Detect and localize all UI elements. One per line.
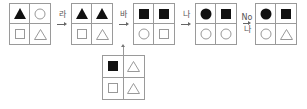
square-filled-icon (281, 9, 291, 19)
cell (103, 56, 124, 78)
circle-outline-icon (138, 28, 150, 40)
arrow-label-1: 라 (56, 10, 68, 19)
triangle-outline-icon (127, 83, 140, 94)
cell (154, 4, 174, 24)
triangle-filled-icon (14, 8, 26, 19)
cell (124, 56, 145, 78)
arrow-right-icon (57, 24, 65, 25)
square-outline-icon (159, 29, 169, 39)
cell (10, 4, 30, 24)
circle-outline-icon (220, 28, 232, 40)
cell (134, 24, 154, 44)
triangle-filled-icon (76, 8, 88, 19)
cell (72, 4, 92, 24)
cell (30, 24, 50, 44)
cell (92, 4, 112, 24)
cell (276, 4, 296, 24)
arrow-right-icon (243, 23, 249, 24)
cell (103, 78, 124, 100)
cell (196, 4, 216, 24)
circle-filled-icon (260, 8, 272, 20)
arrow-label-2: 바 (117, 10, 129, 19)
cell (30, 4, 50, 24)
cell (216, 24, 236, 44)
grid-2 (71, 3, 113, 45)
grid-6 (102, 55, 145, 100)
grid-3 (133, 3, 175, 45)
square-filled-icon (139, 9, 149, 19)
grid-1 (9, 3, 51, 45)
arrow-label-4: No (240, 13, 254, 22)
grid-4 (195, 3, 237, 45)
grid-5 (255, 3, 297, 45)
cell (92, 24, 112, 44)
cell (124, 78, 145, 100)
cell (256, 4, 276, 24)
triangle-outline-icon (280, 29, 293, 40)
square-filled-icon (108, 61, 118, 71)
cell (154, 24, 174, 44)
triangle-outline-icon (34, 29, 47, 40)
arrow-label-4b: 나 (241, 25, 253, 34)
circle-outline-icon (260, 28, 272, 40)
arrow-right-icon (181, 24, 189, 25)
connector-line (123, 47, 124, 55)
circle-filled-icon (200, 8, 212, 20)
square-outline-icon (77, 29, 87, 39)
cell (256, 24, 276, 44)
arrow-right-icon (119, 24, 127, 25)
square-filled-icon (221, 9, 231, 19)
circle-outline-icon (34, 8, 46, 20)
square-outline-icon (108, 83, 118, 93)
triangle-outline-icon (96, 29, 109, 40)
cell (216, 4, 236, 24)
arrow-label-3: 나 (180, 10, 192, 19)
cell (10, 24, 30, 44)
cell (134, 4, 154, 24)
cell (196, 24, 216, 44)
cell (276, 24, 296, 44)
square-outline-icon (15, 29, 25, 39)
circle-outline-icon (200, 28, 212, 40)
cell (72, 24, 92, 44)
triangle-outline-icon (127, 61, 140, 72)
square-filled-icon (159, 9, 169, 19)
triangle-filled-icon (96, 8, 108, 19)
